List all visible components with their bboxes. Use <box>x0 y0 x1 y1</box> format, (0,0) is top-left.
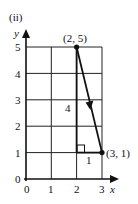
y-axis-label: y <box>13 27 19 39</box>
svg-text:2: 2 <box>15 120 21 132</box>
point-3-1 <box>99 150 104 155</box>
y-tick-labels: 0 1 2 3 4 5 <box>15 41 21 185</box>
svg-text:3: 3 <box>15 94 21 106</box>
rise-label: 4 <box>65 102 71 114</box>
x-axis-label: x <box>109 183 115 195</box>
point-label-3-1: (3, 1) <box>106 147 130 160</box>
svg-text:5: 5 <box>15 41 21 53</box>
point-2-5 <box>74 44 79 49</box>
right-angle-marker <box>77 145 85 153</box>
slope-triangle-diagram: (ii) y x 0 1 2 3 4 5 0 1 2 3 <box>0 0 138 204</box>
x-tick-labels: 0 1 2 3 <box>24 183 105 195</box>
svg-text:1: 1 <box>48 183 54 195</box>
point-label-2-5: (2, 5) <box>63 32 87 45</box>
svg-text:4: 4 <box>15 68 21 80</box>
svg-text:1: 1 <box>15 147 21 159</box>
run-label: 1 <box>86 154 92 166</box>
svg-text:0: 0 <box>15 173 21 185</box>
svg-text:3: 3 <box>99 183 105 195</box>
svg-text:0: 0 <box>24 183 30 195</box>
x-axis-arrow-icon <box>110 175 119 183</box>
svg-text:2: 2 <box>74 183 80 195</box>
axes <box>22 29 119 183</box>
part-label: (ii) <box>9 11 23 24</box>
y-axis-arrow-icon <box>22 29 30 38</box>
